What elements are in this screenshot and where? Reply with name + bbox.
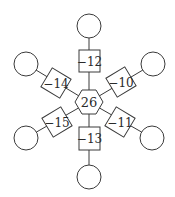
center-label: 26 bbox=[81, 95, 98, 110]
end-circle-lower-right bbox=[140, 126, 164, 150]
spoke-box-label: −14 bbox=[43, 77, 69, 91]
star-diagram: −12 −10 −11 −13 −15 −14 26 bbox=[0, 0, 175, 197]
end-circle-upper-right bbox=[141, 52, 165, 76]
spoke-box-label: −13 bbox=[77, 132, 102, 146]
spoke-box-upper-left: −14 bbox=[37, 65, 75, 102]
end-circle-down bbox=[77, 165, 101, 189]
spoke-box-label: −11 bbox=[107, 116, 132, 130]
end-circle-lower-left bbox=[14, 126, 38, 150]
spoke-box-upper-right: −10 bbox=[102, 64, 140, 100]
spoke-box-label: −15 bbox=[44, 116, 69, 130]
spoke-box-lower-right: −11 bbox=[101, 104, 139, 140]
spoke-box-lower-left: −15 bbox=[38, 104, 76, 140]
spoke-box-label: −12 bbox=[77, 55, 102, 69]
spoke-box-down: −13 bbox=[77, 127, 102, 150]
center-hexagon: 26 bbox=[75, 90, 103, 114]
end-circle-up bbox=[77, 14, 101, 38]
spoke-box-label: −10 bbox=[108, 76, 133, 90]
end-circle-upper-left bbox=[14, 52, 38, 76]
spoke-box-up: −12 bbox=[77, 50, 102, 72]
